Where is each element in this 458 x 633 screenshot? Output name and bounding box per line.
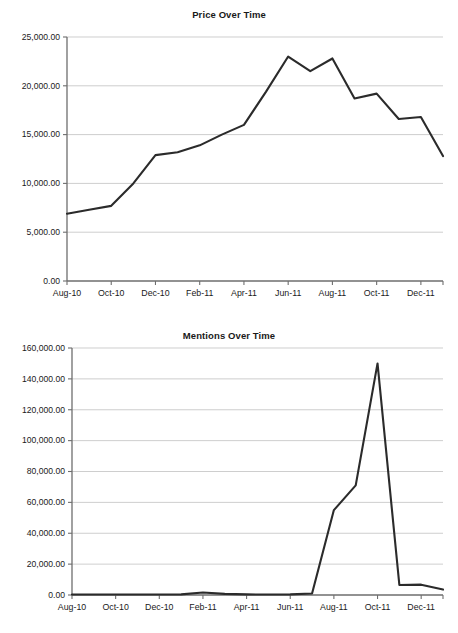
chart-page: Price Over Time 0.005,000.0010,000.0015,… bbox=[0, 0, 458, 633]
price-chart-panel: Price Over Time 0.005,000.0010,000.0015,… bbox=[0, 0, 458, 318]
y-axis-label: 15,000.00 bbox=[22, 129, 60, 139]
y-axis-label: 25,000.00 bbox=[22, 32, 60, 42]
y-axis-label: 60,000.00 bbox=[27, 497, 65, 507]
x-axis-label: Oct-11 bbox=[364, 288, 390, 298]
y-axis-label: 100,000.00 bbox=[22, 435, 65, 445]
y-axis-label: 20,000.00 bbox=[27, 559, 65, 569]
x-axis-label: Dec-11 bbox=[407, 602, 435, 612]
x-axis-label: Aug-11 bbox=[320, 602, 348, 612]
price-chart-plot: 0.005,000.0010,000.0015,000.0020,000.002… bbox=[0, 0, 458, 318]
y-axis-label: 120,000.00 bbox=[22, 405, 65, 415]
y-axis-label: 5,000.00 bbox=[27, 227, 61, 237]
x-axis-label: Jun-11 bbox=[277, 602, 303, 612]
y-axis-label: 80,000.00 bbox=[27, 466, 65, 476]
x-axis-label: Oct-11 bbox=[365, 602, 391, 612]
data-series-line bbox=[72, 363, 443, 594]
x-axis-label: Apr-11 bbox=[231, 288, 257, 298]
x-axis-label: Oct-10 bbox=[102, 602, 129, 612]
y-axis-label: 140,000.00 bbox=[22, 374, 65, 384]
x-axis-label: Dec-10 bbox=[141, 288, 169, 298]
x-axis-label: Feb-11 bbox=[186, 288, 213, 298]
x-axis-label: Aug-11 bbox=[319, 288, 347, 298]
x-axis-label: Aug-10 bbox=[53, 288, 81, 298]
x-axis-label: Oct-10 bbox=[98, 288, 125, 298]
x-axis-label: Dec-10 bbox=[145, 602, 173, 612]
y-axis-label: 0.00 bbox=[43, 276, 60, 286]
mentions-chart-plot: 0.0020,000.0040,000.0060,000.0080,000.00… bbox=[0, 320, 458, 633]
y-axis-label: 40,000.00 bbox=[27, 528, 65, 538]
x-axis-label: Dec-11 bbox=[407, 288, 435, 298]
mentions-chart-panel: Mentions Over Time 0.0020,000.0040,000.0… bbox=[0, 320, 458, 633]
y-axis-label: 20,000.00 bbox=[22, 81, 60, 91]
y-axis-label: 0.00 bbox=[48, 590, 65, 600]
x-axis-label: Apr-11 bbox=[234, 602, 260, 612]
y-axis-label: 10,000.00 bbox=[22, 178, 60, 188]
data-series-line bbox=[67, 57, 443, 214]
x-axis-label: Aug-10 bbox=[58, 602, 86, 612]
x-axis-label: Feb-11 bbox=[189, 602, 216, 612]
x-axis-label: Jun-11 bbox=[275, 288, 301, 298]
y-axis-label: 160,000.00 bbox=[22, 343, 65, 353]
